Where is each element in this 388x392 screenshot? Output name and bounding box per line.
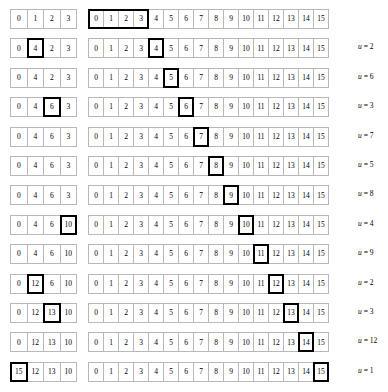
hash-table-cell: 3 [60, 97, 78, 117]
hash-table-cell: 3 [60, 38, 78, 58]
index-cell: 2 [118, 156, 134, 176]
row-variable-label: u = 6 [358, 72, 373, 81]
index-cell: 4 [148, 97, 164, 117]
diagram-row: 01213100123456789101112131415u = 3 [0, 303, 388, 324]
index-cell: 14 [298, 185, 314, 205]
hash-table-cell: 4 [27, 156, 45, 176]
index-cell: 8 [208, 303, 224, 323]
diagram-row: 04230123456789101112131415u = 6 [0, 68, 388, 89]
index-cell: 1 [103, 362, 119, 382]
hash-table-cell: 2 [43, 9, 61, 29]
index-cell: 4 [148, 362, 164, 382]
index-cell: 5 [163, 97, 179, 117]
variable-name: u [358, 189, 362, 198]
index-cell: 9 [223, 156, 239, 176]
index-cell: 6 [178, 303, 194, 323]
index-cell: 1 [103, 332, 119, 352]
index-cell: 1 [103, 9, 119, 29]
index-cell: 4 [148, 9, 164, 29]
variable-value: 1 [370, 366, 374, 375]
index-cell: 1 [103, 215, 119, 235]
index-cell: 10 [238, 38, 254, 58]
index-cell: 3 [133, 9, 149, 29]
index-cell: 14 [298, 362, 314, 382]
index-cell: 5 [163, 332, 179, 352]
index-cell: 2 [118, 362, 134, 382]
variable-name: u [358, 307, 362, 316]
variable-value: 5 [370, 160, 374, 169]
index-cell: 5 [163, 38, 179, 58]
hash-table-cell: 3 [60, 68, 78, 88]
index-cell-highlighted: 12 [268, 274, 284, 294]
variable-value: 9 [370, 248, 374, 257]
index-cell: 13 [283, 127, 299, 147]
diagram-row: 04630123456789101112131415u = 3 [0, 97, 388, 118]
equals-sign: = [364, 366, 368, 375]
index-cell: 6 [178, 127, 194, 147]
hash-table-array: 0423 [10, 68, 77, 88]
index-cell: 14 [298, 97, 314, 117]
hash-table-cell: 0 [10, 215, 28, 235]
index-cell: 1 [103, 38, 119, 58]
hash-table-array: 0463 [10, 97, 77, 117]
index-cell: 12 [268, 185, 284, 205]
hash-table-cell: 4 [27, 185, 45, 205]
index-cell: 12 [268, 244, 284, 264]
equals-sign: = [364, 131, 368, 140]
diagram-row: 04630123456789101112131415u = 8 [0, 185, 388, 206]
index-cell: 15 [313, 185, 329, 205]
index-cell: 9 [223, 38, 239, 58]
index-cell: 2 [118, 127, 134, 147]
index-cell: 11 [253, 303, 269, 323]
hash-table-cell: 6 [43, 215, 61, 235]
index-cell: 7 [193, 332, 209, 352]
index-cell: 9 [223, 332, 239, 352]
index-cell: 3 [133, 68, 149, 88]
index-cell: 0 [88, 185, 104, 205]
index-cell: 4 [148, 127, 164, 147]
index-cell: 11 [253, 332, 269, 352]
index-cell-highlighted: 14 [298, 332, 314, 352]
diagram-row: 151213100123456789101112131415u = 1 [0, 362, 388, 383]
hash-table-cell: 6 [43, 274, 61, 294]
row-variable-label: u = 12 [358, 336, 377, 345]
index-cell: 12 [268, 97, 284, 117]
index-cell: 15 [313, 156, 329, 176]
hash-table-cell: 3 [60, 185, 78, 205]
hash-table-cell: 12 [27, 362, 45, 382]
hash-table-cell: 1 [27, 9, 45, 29]
index-cell: 5 [163, 9, 179, 29]
index-cell: 2 [118, 215, 134, 235]
hash-table-cell: 0 [10, 68, 28, 88]
index-cell: 11 [253, 38, 269, 58]
index-cell: 0 [88, 274, 104, 294]
diagram-row: 04630123456789101112131415u = 5 [0, 156, 388, 177]
index-cell: 6 [178, 68, 194, 88]
index-cell: 2 [118, 274, 134, 294]
variable-value: 12 [370, 336, 378, 345]
variable-value: 2 [370, 42, 374, 51]
index-cell-highlighted: 4 [148, 38, 164, 58]
hash-table-cell: 0 [10, 38, 28, 58]
index-cell: 13 [283, 9, 299, 29]
index-cell-highlighted: 7 [193, 127, 209, 147]
index-cell: 3 [133, 38, 149, 58]
index-cell: 3 [133, 127, 149, 147]
diagram-row: 04630123456789101112131415u = 7 [0, 127, 388, 148]
index-cell: 1 [103, 127, 119, 147]
index-cell: 12 [268, 38, 284, 58]
index-cell: 4 [148, 68, 164, 88]
index-cell: 4 [148, 215, 164, 235]
index-cell: 2 [118, 9, 134, 29]
index-array: 0123456789101112131415 [88, 332, 329, 352]
index-cell: 15 [313, 332, 329, 352]
row-variable-label: u = 4 [358, 219, 373, 228]
index-cell: 10 [238, 274, 254, 294]
index-cell: 3 [133, 362, 149, 382]
index-cell: 15 [313, 303, 329, 323]
equals-sign: = [364, 307, 368, 316]
index-cell: 7 [193, 68, 209, 88]
index-cell: 6 [178, 244, 194, 264]
index-cell: 5 [163, 185, 179, 205]
index-cell: 12 [268, 362, 284, 382]
